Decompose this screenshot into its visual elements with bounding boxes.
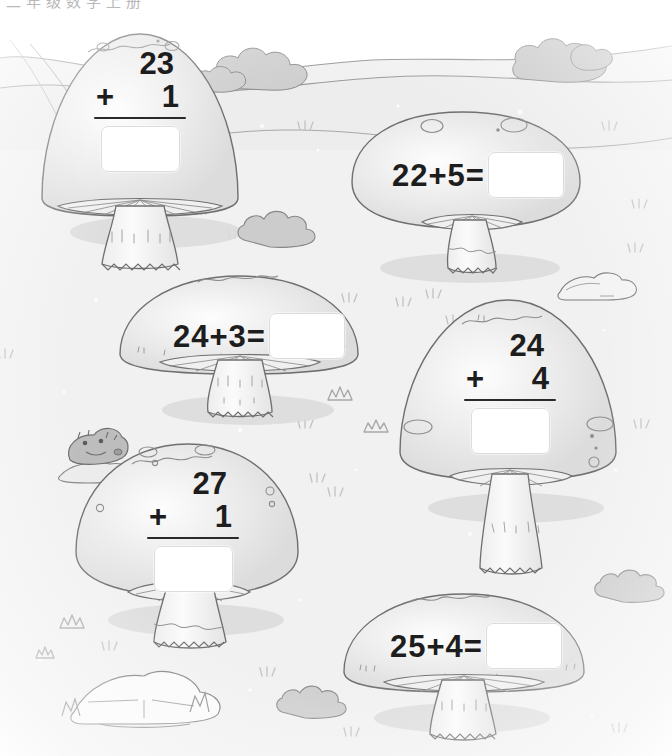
problem-4-addend-bottom-row: + 4 bbox=[462, 363, 558, 396]
problem-4-rule bbox=[464, 399, 556, 401]
problem-5: 27 + 1 bbox=[145, 468, 241, 592]
problem-4-addend-bottom: 4 bbox=[532, 363, 549, 396]
worksheet-page: { "page": { "header_fragment": "二年级数学上册"… bbox=[0, 0, 672, 756]
problem-6-answer-box[interactable] bbox=[486, 623, 562, 669]
problem-4-operator: + bbox=[466, 363, 484, 396]
problem-1-addend-top: 23 bbox=[140, 48, 174, 81]
problem-1-answer-box[interactable] bbox=[101, 126, 180, 172]
problem-5-addend-bottom-row: + 1 bbox=[145, 501, 241, 534]
problem-3: 24+3= bbox=[173, 313, 345, 359]
problem-6-expression: 25+4= bbox=[390, 631, 483, 662]
problem-5-rule bbox=[147, 537, 239, 539]
header-text: 二年级数学上册 bbox=[6, 0, 146, 10]
problem-4-addend-top: 24 bbox=[510, 330, 544, 363]
page-header-fragment: 二年级数学上册 bbox=[0, 0, 672, 10]
problem-1-operator: + bbox=[96, 81, 114, 114]
problem-3-answer-box[interactable] bbox=[269, 313, 345, 359]
problem-1-rule bbox=[94, 117, 186, 119]
problem-3-expression: 24+3= bbox=[173, 321, 266, 352]
problem-4-answer-box[interactable] bbox=[471, 408, 550, 454]
problem-1-addend-top-row: 23 bbox=[92, 48, 188, 81]
problem-5-addend-top-row: 27 bbox=[145, 468, 241, 501]
problem-4-addend-top-row: 24 bbox=[462, 330, 558, 363]
problem-2: 22+5= bbox=[392, 152, 564, 198]
problem-5-addend-top: 27 bbox=[193, 468, 227, 501]
problem-1-addend-bottom-row: + 1 bbox=[92, 81, 188, 114]
problem-1: 23 + 1 bbox=[92, 48, 188, 172]
problem-6: 25+4= bbox=[390, 623, 562, 669]
problem-4: 24 + 4 bbox=[462, 330, 558, 454]
problem-5-addend-bottom: 1 bbox=[215, 501, 232, 534]
problem-2-answer-box[interactable] bbox=[488, 152, 564, 198]
problem-2-expression: 22+5= bbox=[392, 160, 485, 191]
problem-5-answer-box[interactable] bbox=[154, 546, 233, 592]
problem-1-addend-bottom: 1 bbox=[162, 81, 179, 114]
problem-5-operator: + bbox=[149, 501, 167, 534]
